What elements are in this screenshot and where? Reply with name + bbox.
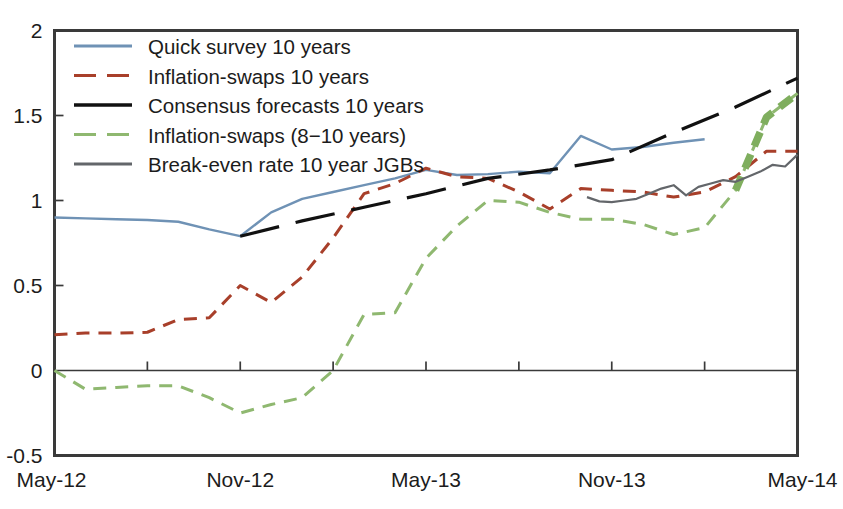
x-tick-label: Nov-12 [206, 468, 274, 491]
line-chart: 21.510.50-0.5 May-12Nov-12May-13Nov-13Ma… [0, 0, 843, 509]
y-tick-label: 1 [31, 189, 43, 212]
y-tick-label: 0 [31, 359, 43, 382]
legend-label: Consensus forecasts 10 years [148, 94, 424, 117]
y-axis-ticks [55, 31, 64, 456]
x-tick-label: May-12 [17, 468, 87, 491]
x-tick-label: May-14 [767, 468, 837, 491]
y-tick-label: 1.5 [13, 104, 42, 127]
series-line-emphasis [736, 93, 798, 190]
y-tick-label: 2 [31, 19, 43, 42]
y-tick-label: 0.5 [13, 274, 42, 297]
x-axis-tick-labels: May-12Nov-12May-13Nov-13May-14 [17, 468, 838, 491]
x-axis-minor-ticks [147, 362, 797, 371]
y-axis-tick-labels: 21.510.50-0.5 [6, 19, 42, 467]
legend-label: Quick survey 10 years [148, 35, 351, 58]
x-tick-label: Nov-13 [578, 468, 646, 491]
legend-label: Inflation-swaps (8−10 years) [148, 124, 406, 147]
y-tick-label: -0.5 [6, 444, 42, 467]
x-tick-label: May-13 [391, 468, 461, 491]
legend-label: Inflation-swaps 10 years [148, 65, 369, 88]
chart-legend: Quick survey 10 yearsInflation-swaps 10 … [64, 26, 464, 184]
chart-container: 21.510.50-0.5 May-12Nov-12May-13Nov-13Ma… [0, 0, 843, 509]
legend-label: Break-even rate 10 year JGBs [148, 153, 424, 176]
